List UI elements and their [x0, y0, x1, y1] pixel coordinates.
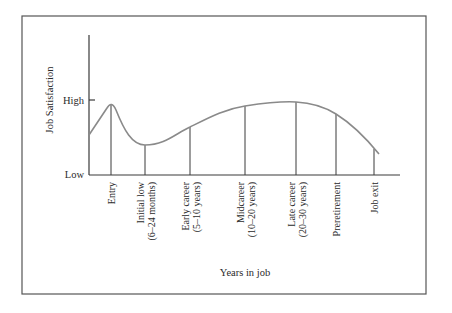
- figure-frame: [22, 16, 426, 294]
- x-label-late-career-2: (20–30 years): [297, 182, 309, 237]
- x-label-initial-low-2: (6–24 months): [146, 182, 158, 241]
- x-label-early-career-2: (5–10 years): [191, 182, 203, 232]
- y-tick-label-low: Low: [65, 169, 85, 180]
- chart-canvas: High Low Job Satisfaction Entry Initial …: [0, 0, 452, 313]
- x-label-initial-low-1: Initial low: [135, 181, 146, 223]
- y-tick-label-high: High: [63, 95, 85, 106]
- x-label-midcareer-1: Midcareer: [235, 181, 246, 223]
- x-label-job-exit: Job exit: [369, 182, 380, 214]
- y-axis-title: Job Satisfaction: [44, 66, 55, 134]
- x-label-preretirement: Preretirement: [331, 182, 342, 237]
- x-label-late-career-1: Late career: [286, 181, 297, 226]
- x-label-entry: Entry: [106, 182, 117, 204]
- x-label-early-career-1: Early career: [180, 181, 191, 230]
- x-label-midcareer-2: (10–20 years): [246, 182, 258, 237]
- x-axis-title: Years in job: [220, 267, 270, 278]
- x-category-labels: Entry Initial low (6–24 months) Early ca…: [106, 181, 380, 240]
